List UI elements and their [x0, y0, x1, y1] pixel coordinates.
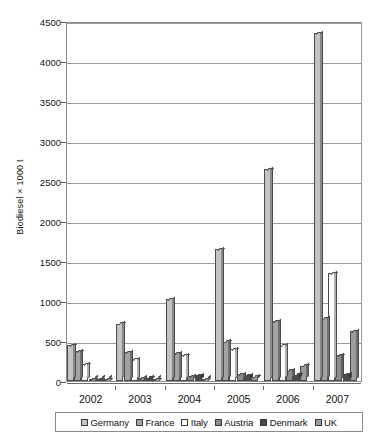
bar-group-2002	[67, 23, 110, 381]
y-tick-label-0: 0	[21, 377, 61, 388]
bar-uk-2005	[251, 377, 258, 381]
legend-label: Denmark	[270, 417, 308, 428]
x-label-2005: 2005	[227, 393, 250, 405]
y-tick-mark-2500	[61, 182, 66, 183]
chart-legend: GermanyFranceItalyAustriaDenmarkUK	[55, 412, 363, 432]
legend-item-germany[interactable]: Germany	[81, 417, 129, 428]
legend-item-italy[interactable]: Italy	[181, 417, 207, 428]
legend-label: Germany	[91, 417, 129, 428]
bar-side-face	[137, 357, 140, 379]
bar-side-face	[334, 271, 337, 379]
gridline-0	[67, 383, 361, 384]
x-axis: 200220032004200520062007	[66, 386, 362, 406]
bar-side-face	[172, 297, 175, 379]
y-tick-label-4500: 4500	[21, 17, 61, 28]
bar-side-face	[179, 351, 182, 379]
legend-item-france[interactable]: France	[136, 417, 174, 428]
y-tick-mark-4500	[61, 22, 66, 23]
bar-austria-2004	[187, 376, 194, 381]
legend-swatch-icon-denmark	[260, 419, 267, 426]
bar-germany-2006	[264, 169, 271, 381]
y-tick-mark-2000	[61, 222, 66, 223]
bar-germany-2004	[166, 299, 173, 381]
y-tick-label-4000: 4000	[21, 57, 61, 68]
y-tick-mark-500	[61, 342, 66, 343]
y-tick-label-3000: 3000	[21, 137, 61, 148]
legend-item-uk[interactable]: UK	[315, 417, 338, 428]
bar-side-face	[221, 247, 224, 379]
bar-uk-2002	[103, 379, 110, 381]
bar-italy-2005	[229, 349, 236, 381]
y-tick-mark-1000	[61, 302, 66, 303]
legend-item-denmark[interactable]: Denmark	[260, 417, 307, 428]
legend-swatch-icon-uk	[315, 419, 322, 426]
legend-item-austria[interactable]: Austria	[215, 417, 253, 428]
bar-germany-2005	[215, 249, 222, 381]
bar-side-face	[349, 372, 352, 379]
y-tick-mark-3000	[61, 142, 66, 143]
bar-denmark-2003	[145, 378, 152, 381]
bar-side-face	[356, 329, 359, 379]
biodiesel-production-bar-chart: Biodiesel × 1000 t 050010001500200025003…	[0, 0, 383, 446]
x-tick-3	[263, 386, 264, 390]
bar-side-face	[341, 353, 344, 379]
bar-side-face	[278, 319, 281, 379]
bar-side-face	[80, 349, 83, 379]
legend-swatch-icon-france	[136, 419, 143, 426]
x-label-2003: 2003	[128, 393, 151, 405]
bar-germany-2002	[67, 345, 74, 381]
bar-group-2003	[116, 23, 159, 381]
bar-germany-2003	[116, 324, 123, 381]
y-tick-mark-0	[61, 382, 66, 383]
legend-label: UK	[324, 417, 337, 428]
x-label-2004: 2004	[178, 393, 201, 405]
bar-side-face	[285, 343, 288, 378]
x-tick-2	[214, 386, 215, 390]
x-label-2002: 2002	[79, 393, 102, 405]
legend-label: Austria	[224, 417, 253, 428]
bar-side-face	[228, 339, 231, 378]
bar-side-face	[201, 373, 204, 379]
y-tick-mark-4000	[61, 62, 66, 63]
bar-austria-2003	[138, 378, 145, 381]
bar-uk-2004	[202, 379, 209, 381]
bar-group-2006	[264, 23, 307, 381]
plot-inner	[67, 23, 361, 381]
x-tick-1	[165, 386, 166, 390]
y-tick-label-3500: 3500	[21, 97, 61, 108]
y-tick-label-1000: 1000	[21, 297, 61, 308]
legend-swatch-icon-germany	[81, 419, 88, 426]
legend-swatch-icon-austria	[215, 419, 222, 426]
y-tick-label-2000: 2000	[21, 217, 61, 228]
legend-label: Italy	[191, 417, 208, 428]
bar-side-face	[130, 350, 133, 379]
bar-uk-2003	[152, 379, 159, 381]
bar-group-2005	[215, 23, 258, 381]
y-tick-mark-1500	[61, 262, 66, 263]
bar-austria-2002	[89, 379, 96, 381]
bar-side-face	[327, 316, 330, 378]
y-tick-label-2500: 2500	[21, 177, 61, 188]
y-tick-label-1500: 1500	[21, 257, 61, 268]
bar-france-2003	[124, 352, 131, 381]
bar-denmark-2007	[343, 374, 350, 381]
y-tick-mark-3500	[61, 102, 66, 103]
x-label-2007: 2007	[326, 393, 349, 405]
bar-germany-2007	[314, 33, 321, 381]
bar-side-face	[73, 343, 76, 379]
bar-group-2004	[166, 23, 209, 381]
legend-swatch-icon-italy	[181, 419, 188, 426]
x-tick-0	[115, 386, 116, 390]
legend-label: France	[145, 417, 174, 428]
bar-italy-2002	[81, 364, 88, 381]
x-label-2006: 2006	[276, 393, 299, 405]
x-tick-4	[313, 386, 314, 390]
bar-side-face	[320, 31, 323, 379]
bar-france-2006	[272, 321, 279, 381]
bar-side-face	[186, 353, 189, 379]
y-tick-label-500: 500	[21, 337, 61, 348]
plot-area	[66, 22, 362, 382]
bar-group-2007	[314, 23, 357, 381]
bar-austria-2005	[237, 374, 244, 381]
